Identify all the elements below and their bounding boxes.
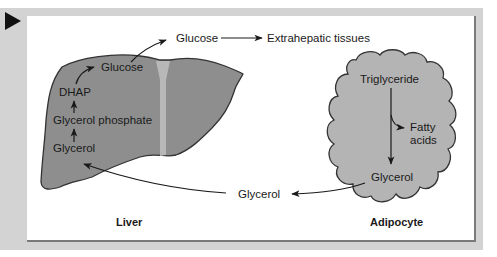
extrahepatic-tissues-label: Extrahepatic tissues <box>267 32 370 44</box>
liver-title: Liver <box>116 216 143 228</box>
adipocyte-glycerol-label: Glycerol <box>371 171 413 183</box>
blood-glucose-label: Glucose <box>176 32 218 44</box>
adipocyte-title: Adipocyte <box>370 216 423 228</box>
blood-glycerol-label: Glycerol <box>238 188 280 200</box>
glycerol-phosphate-label: Glycerol phosphate <box>53 114 152 126</box>
play-triangle-icon <box>5 12 21 30</box>
metabolism-diagram: Glucose DHAP Glycerol phosphate Glycerol… <box>0 0 497 257</box>
liver-glycerol-label: Glycerol <box>53 142 95 154</box>
liver-glucose-label: Glucose <box>101 61 143 73</box>
fatty-label: Fatty <box>410 121 436 133</box>
dhap-label: DHAP <box>59 86 91 98</box>
triglyceride-label: Triglyceride <box>360 73 419 85</box>
acids-label: acids <box>410 134 437 146</box>
